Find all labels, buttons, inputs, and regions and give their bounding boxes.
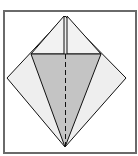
- origami-diagram: [0, 0, 138, 156]
- top-left-flap: [31, 16, 64, 54]
- top-right-flap: [67, 16, 101, 54]
